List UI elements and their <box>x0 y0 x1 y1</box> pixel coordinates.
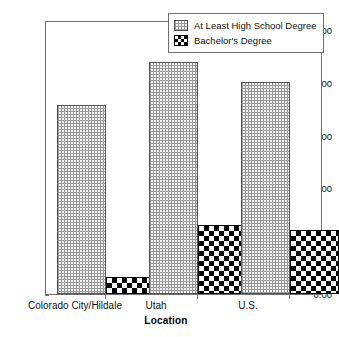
bar-utah-bachelors <box>198 225 247 294</box>
legend-swatch-high-school-icon <box>174 20 188 31</box>
legend-swatch-bachelors-icon <box>174 35 188 46</box>
bar-us-bachelors <box>290 230 339 294</box>
x-category-label-utah: Utah <box>116 300 196 311</box>
legend-item-high-school: At Least High School Degree <box>174 18 317 33</box>
legend-label-high-school: At Least High School Degree <box>194 20 317 31</box>
bar-us-hs <box>241 82 290 294</box>
x-axis-title: Location <box>0 315 332 326</box>
x-tick-mark-3 <box>289 295 290 299</box>
plot-area <box>45 21 322 295</box>
bar-utah-hs <box>149 62 198 294</box>
legend-label-bachelors: Bachelor's Degree <box>194 35 272 46</box>
x-category-label-us: U.S. <box>208 300 288 311</box>
bar-colorado-city-bachelors <box>106 277 155 294</box>
x-tick-mark-2 <box>197 295 198 299</box>
x-category-label-colorado-city: Colorado City/Hildale <box>20 300 130 311</box>
bar-colorado-city-hs <box>57 105 106 294</box>
chart-legend: At Least High School Degree Bachelor's D… <box>168 13 324 53</box>
x-tick-mark-1 <box>105 295 106 299</box>
legend-item-bachelors: Bachelor's Degree <box>174 33 317 48</box>
y-tick-mark-0 <box>45 295 49 296</box>
